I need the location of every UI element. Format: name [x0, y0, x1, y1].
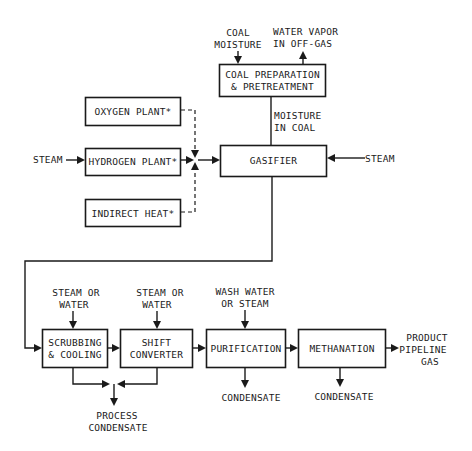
steam-left-label: STEAM	[33, 154, 63, 165]
svg-text:GASIFIER: GASIFIER	[250, 155, 297, 166]
svg-text:OXYGEN PLANT*: OXYGEN PLANT*	[95, 106, 172, 117]
svg-text:PURIFICATION: PURIFICATION	[210, 343, 281, 354]
svg-text:PIPELINE: PIPELINE	[399, 344, 446, 355]
hydrogen-arrow	[180, 156, 194, 164]
process-condensate-arrow	[110, 384, 118, 406]
svg-text:MOISTURE: MOISTURE	[274, 110, 321, 121]
oxygen-dashed-line	[181, 110, 195, 150]
shift-condensate-arrowhead	[117, 380, 125, 388]
scrubbing-cooling-box[interactable]: SCRUBBING & COOLING	[43, 330, 108, 368]
product-pipeline-gas-label: PRODUCT PIPELINE GAS	[399, 332, 447, 367]
steam-or-water-1-arrow	[69, 311, 77, 329]
svg-text:WATER VAPOR: WATER VAPOR	[273, 26, 338, 37]
svg-text:GAS: GAS	[421, 356, 439, 367]
indirect-heat-arrowhead	[191, 162, 199, 170]
svg-text:OR STEAM: OR STEAM	[221, 298, 268, 309]
svg-text:& COOLING: & COOLING	[48, 349, 101, 360]
scrubbing-condensate-line	[73, 368, 103, 384]
svg-text:INDIRECT HEAT*: INDIRECT HEAT*	[92, 208, 175, 219]
svg-text:CONDENSATE: CONDENSATE	[314, 391, 373, 402]
svg-text:METHANATION: METHANATION	[309, 343, 374, 354]
steam-or-water-1-label: STEAM OR WATER	[52, 287, 99, 310]
svg-text:PRODUCT: PRODUCT	[406, 332, 448, 343]
scrubbing-condensate-arrowhead	[102, 380, 110, 388]
svg-text:CONDENSATE: CONDENSATE	[221, 392, 280, 403]
moisture-in-coal-label: MOISTURE IN COAL	[274, 110, 321, 133]
shift-condensate-line	[124, 368, 157, 384]
gasifier-box[interactable]: GASIFIER	[221, 146, 327, 177]
water-vapor-label: WATER VAPOR IN OFF-GAS	[273, 26, 338, 49]
svg-text:SCRUBBING: SCRUBBING	[48, 337, 101, 348]
coal-moisture-label: COAL MOISTURE	[214, 27, 261, 50]
indirect-heat-box[interactable]: INDIRECT HEAT*	[86, 200, 181, 227]
purification-to-methanation-arrow	[285, 344, 298, 352]
svg-text:CONDENSATE: CONDENSATE	[88, 422, 147, 433]
wash-water-label: WASH WATER OR STEAM	[215, 286, 274, 309]
process-condensate-label: PROCESS CONDENSATE	[88, 410, 147, 433]
svg-text:CONVERTER: CONVERTER	[130, 349, 183, 360]
gasifier-to-scrubbing-arrowhead	[34, 344, 42, 352]
purification-box[interactable]: PURIFICATION	[207, 330, 286, 368]
svg-text:& PRETREATMENT: & PRETREATMENT	[231, 81, 314, 92]
oxygen-plant-box[interactable]: OXYGEN PLANT*	[86, 98, 181, 126]
shift-to-purification-arrow	[192, 344, 206, 352]
wash-water-arrow	[241, 310, 249, 329]
svg-text:WASH WATER: WASH WATER	[215, 286, 274, 297]
coal-moisture-arrow	[234, 51, 242, 64]
methanation-condensate-arrow	[336, 368, 344, 387]
water-vapor-arrow	[299, 51, 307, 64]
process-flow-diagram: COAL MOISTURE WATER VAPOR IN OFF-GAS COA…	[0, 0, 472, 451]
svg-text:WATER: WATER	[59, 299, 89, 310]
steam-left-arrow	[66, 156, 85, 164]
svg-text:STEAM: STEAM	[33, 154, 63, 165]
svg-text:IN OFF-GAS: IN OFF-GAS	[273, 38, 332, 49]
purification-condensate-arrow	[241, 368, 249, 388]
steam-right-arrow	[327, 154, 365, 162]
svg-text:PROCESS: PROCESS	[96, 410, 138, 421]
hydrogen-plant-box[interactable]: HYDROGEN PLANT*	[86, 149, 181, 176]
svg-text:SHIFT: SHIFT	[142, 337, 172, 348]
condensate-1-label: CONDENSATE	[221, 392, 280, 403]
steam-right-label: STEAM	[365, 153, 395, 164]
oxygen-arrowhead	[191, 150, 199, 158]
svg-text:COAL PREPARATION: COAL PREPARATION	[225, 69, 320, 80]
methanation-box[interactable]: METHANATION	[299, 330, 386, 368]
svg-text:STEAM OR: STEAM OR	[52, 287, 99, 298]
svg-text:COAL: COAL	[226, 27, 250, 38]
junction-to-gasifier-arrow	[198, 156, 220, 164]
coal-preparation-box[interactable]: COAL PREPARATION & PRETREATMENT	[220, 65, 326, 97]
steam-or-water-2-label: STEAM OR WATER	[136, 287, 183, 310]
condensate-2-label: CONDENSATE	[314, 391, 373, 402]
steam-or-water-2-arrow	[153, 311, 161, 329]
svg-text:IN COAL: IN COAL	[274, 122, 316, 133]
svg-text:STEAM OR: STEAM OR	[136, 287, 183, 298]
methanation-to-product-arrow	[385, 344, 399, 352]
shift-converter-box[interactable]: SHIFT CONVERTER	[121, 330, 193, 368]
scrubbing-to-shift-arrow	[107, 344, 120, 352]
svg-text:STEAM: STEAM	[365, 153, 395, 164]
svg-text:HYDROGEN PLANT*: HYDROGEN PLANT*	[89, 156, 178, 167]
svg-text:MOISTURE: MOISTURE	[214, 39, 261, 50]
svg-text:WATER: WATER	[142, 299, 172, 310]
indirect-heat-dashed-line	[181, 170, 195, 212]
